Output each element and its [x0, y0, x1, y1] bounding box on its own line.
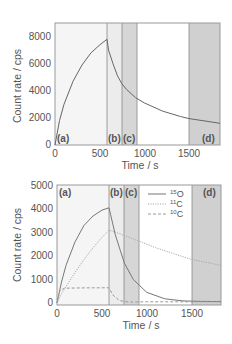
- top-ytick-6000: 6000: [29, 58, 52, 69]
- bottom-region-label-b: (b): [110, 187, 123, 198]
- bottom-xtick-1500: 1500: [181, 308, 204, 319]
- top-xtick-500: 500: [92, 148, 109, 159]
- top-ytick-2000: 2000: [29, 112, 52, 123]
- bottom-region-label-a: (a): [59, 187, 71, 198]
- bottom-chart: 0 1000 2000 3000 4000 5000 0 500 1000 15…: [11, 180, 221, 331]
- region-b: [109, 185, 124, 305]
- bottom-xtick-1000: 1000: [136, 308, 159, 319]
- region-c: [124, 185, 139, 305]
- region-d: [189, 23, 220, 145]
- region-d: [192, 185, 221, 305]
- region-a: [57, 185, 109, 305]
- region-a: [55, 23, 107, 145]
- top-chart: 0 2000 4000 6000 8000 0 500 1000 1500 Ti…: [11, 23, 220, 171]
- bottom-ytick-1000: 1000: [31, 274, 54, 285]
- top-xtick-1500: 1500: [178, 148, 201, 159]
- bottom-region-label-c: (c): [125, 187, 137, 198]
- bottom-xtick-500: 500: [94, 308, 111, 319]
- top-region-label-c: (c): [123, 133, 135, 144]
- region-b: [107, 23, 122, 145]
- top-ylabel: Count rate / cps: [11, 49, 23, 123]
- top-region-label-d: (d): [202, 133, 215, 144]
- bottom-ytick-4000: 4000: [31, 203, 54, 214]
- legend-label-o15: 15O: [170, 189, 184, 199]
- bottom-region-label-d: (d): [203, 187, 216, 198]
- legend-label-c10: 10C: [170, 209, 184, 219]
- figure: 0 2000 4000 6000 8000 0 500 1000 1500 Ti…: [0, 0, 232, 344]
- top-xtick-0: 0: [52, 148, 58, 159]
- region-c: [122, 23, 137, 145]
- top-xtick-1000: 1000: [134, 148, 157, 159]
- legend-label-c11: 11C: [170, 199, 183, 209]
- legend: 15O 11C 10C: [148, 189, 184, 219]
- bottom-xlabel: Time / s: [123, 319, 160, 331]
- bottom-ytick-2000: 2000: [31, 250, 54, 261]
- bottom-ylabel: Count rate / cps: [11, 208, 23, 282]
- top-ytick-4000: 4000: [29, 85, 52, 96]
- top-ytick-0: 0: [45, 139, 51, 150]
- bottom-ytick-5000: 5000: [31, 180, 54, 191]
- bottom-ytick-3000: 3000: [31, 227, 54, 238]
- top-xlabel: Time / s: [122, 159, 159, 171]
- top-region-label-b: (b): [108, 133, 121, 144]
- top-ytick-8000: 8000: [29, 31, 52, 42]
- bottom-xtick-0: 0: [54, 308, 60, 319]
- top-region-label-a: (a): [57, 133, 69, 144]
- bottom-ytick-0: 0: [47, 297, 53, 308]
